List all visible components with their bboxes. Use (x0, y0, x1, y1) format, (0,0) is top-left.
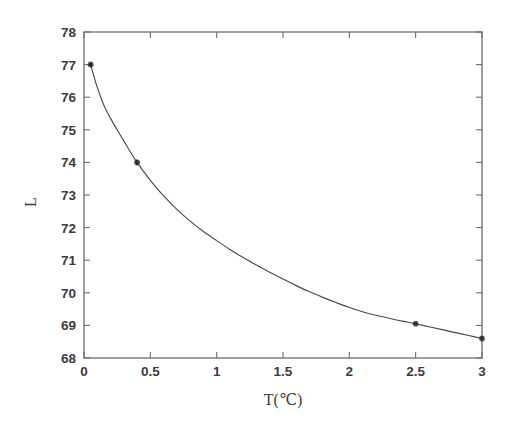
y-tick-label: 68 (61, 351, 77, 366)
y-axis-tick-labels: 6869707172737475767778 (61, 25, 77, 366)
y-tick-label: 75 (61, 123, 77, 138)
y-axis-ticks (84, 32, 482, 358)
y-tick-label: 71 (61, 253, 77, 268)
x-tick-label: 2 (346, 364, 354, 379)
y-tick-label: 69 (61, 318, 76, 333)
x-tick-label: 0 (80, 364, 88, 379)
y-axis-title: L (22, 197, 39, 207)
y-tick-label: 76 (61, 90, 77, 105)
figure-canvas: 00.511.522.53 6869707172737475767778 T(℃… (0, 0, 514, 425)
y-tick-label: 72 (61, 221, 76, 236)
data-series-curve (91, 65, 482, 339)
y-tick-label: 74 (61, 155, 77, 170)
x-tick-label: 0.5 (141, 364, 160, 379)
x-tick-label: 2.5 (406, 364, 425, 379)
x-tick-label: 1 (213, 364, 221, 379)
data-point-markers (88, 62, 485, 342)
plot-frame-box (84, 32, 482, 358)
y-tick-label: 78 (61, 25, 77, 40)
x-axis-title: T(℃) (264, 391, 302, 409)
y-tick-label: 77 (61, 58, 76, 73)
y-tick-label: 70 (61, 286, 76, 301)
data-point-marker (134, 160, 140, 166)
y-tick-label: 73 (61, 188, 77, 203)
chart-plot: 00.511.522.53 6869707172737475767778 T(℃… (0, 0, 514, 425)
x-axis-tick-labels: 00.511.522.53 (80, 364, 486, 379)
x-tick-label: 1.5 (274, 364, 293, 379)
x-tick-label: 3 (478, 364, 486, 379)
x-axis-ticks (84, 32, 482, 358)
